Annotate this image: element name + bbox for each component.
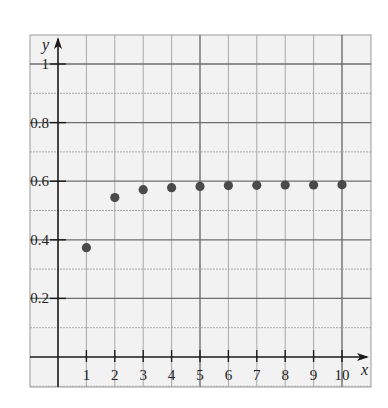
x-tick-label: 3 [139, 367, 147, 383]
y-tick-label: 0.4 [30, 232, 49, 248]
data-point [224, 181, 233, 190]
x-tick-label: 7 [253, 367, 261, 383]
scatter-chart: 123456789100.20.40.60.81 x y [0, 0, 388, 408]
data-point [195, 182, 204, 191]
x-tick-label: 8 [281, 367, 289, 383]
x-tick-label: 4 [168, 367, 176, 383]
x-tick-label: 2 [111, 367, 119, 383]
x-tick-label: 1 [83, 367, 91, 383]
y-tick-label: 0.6 [30, 173, 49, 189]
y-axis-label: y [40, 36, 50, 54]
data-point [82, 243, 91, 252]
data-point [309, 180, 318, 189]
data-point [110, 193, 119, 202]
x-tick-label: 5 [196, 367, 204, 383]
x-tick-label: 6 [225, 367, 233, 383]
x-tick-label: 10 [335, 367, 350, 383]
y-tick-label: 1 [42, 56, 50, 72]
data-point [139, 185, 148, 194]
y-tick-label: 0.2 [30, 290, 49, 306]
data-point [281, 180, 290, 189]
x-axis-label: x [360, 361, 368, 378]
x-tick-label: 9 [310, 367, 318, 383]
y-tick-label: 0.8 [30, 115, 49, 131]
data-point [167, 183, 176, 192]
data-point [252, 181, 261, 190]
data-point [337, 180, 346, 189]
